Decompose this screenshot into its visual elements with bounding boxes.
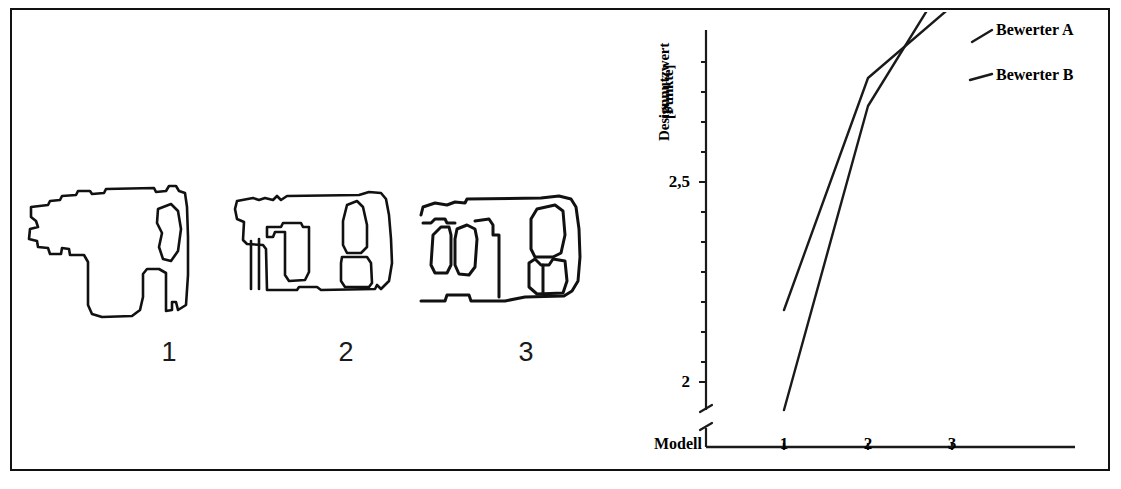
x-tick-label-1: 1 bbox=[771, 434, 797, 454]
x-tick-label-2: 2 bbox=[855, 434, 881, 454]
design-value-chart: Designnutzwert [Punkte] bbox=[640, 12, 1108, 467]
x-axis-title: Modell bbox=[654, 435, 702, 453]
drill-sketch-3 bbox=[409, 177, 604, 337]
legend-label-bewerter-b: Bewerter B bbox=[996, 66, 1073, 84]
figure-page: 1 2 3 Designnutzwert [Punkte] bbox=[0, 0, 1121, 489]
drill-sketch-2 bbox=[229, 177, 409, 337]
legend-swatch-bewerter-a bbox=[972, 30, 992, 42]
y-tick-label-2: 2 bbox=[646, 372, 690, 392]
sketch-caption-2: 2 bbox=[326, 337, 366, 368]
legend-label-bewerter-a: Bewerter A bbox=[996, 21, 1073, 39]
series-line-bewerter-a bbox=[784, 12, 952, 410]
legend-swatch-bewerter-b bbox=[970, 74, 992, 80]
y-tick-label-2-5: 2,5 bbox=[646, 172, 690, 192]
sketch-caption-3: 3 bbox=[506, 337, 546, 368]
sketch-caption-1: 1 bbox=[149, 337, 189, 368]
design-sketches-panel: 1 2 3 bbox=[14, 12, 634, 467]
drill-sketch-1 bbox=[26, 177, 226, 337]
y-axis-break-icon bbox=[700, 405, 712, 430]
series-line-bewerter-b bbox=[784, 12, 952, 310]
x-tick-label-3: 3 bbox=[939, 434, 965, 454]
